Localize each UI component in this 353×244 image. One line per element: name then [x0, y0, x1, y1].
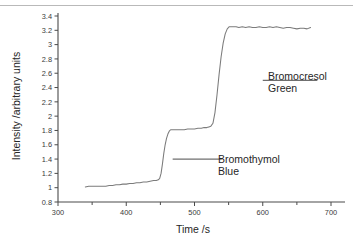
y-tick-label: 3.4	[42, 12, 52, 21]
x-axis-tick-labels: 300400500600700	[52, 208, 337, 217]
x-tick-label: 400	[120, 208, 132, 217]
x-axis-title: Time /s	[176, 223, 210, 235]
y-tick-label: 2.8	[42, 55, 52, 64]
y-tick-label: 2	[48, 112, 52, 121]
x-axis-ticks	[58, 202, 331, 206]
y-tick-label: 1	[48, 183, 52, 192]
x-tick-label: 600	[257, 208, 269, 217]
y-tick-label: 2.2	[42, 98, 52, 107]
x-tick-label: 300	[52, 208, 64, 217]
y-tick-label: 1.2	[42, 169, 52, 178]
y-tick-label: 0.8	[42, 198, 52, 207]
y-tick-label: 1.4	[42, 155, 52, 164]
x-tick-label: 700	[325, 208, 337, 217]
annotation-label-bromocresol-green-line1: Bromocresol	[268, 70, 327, 82]
x-tick-label: 500	[188, 208, 200, 217]
y-tick-label: 2.6	[42, 69, 52, 78]
y-tick-label: 3	[48, 40, 52, 49]
y-axis-title: Intensity /arbitrary units	[10, 52, 22, 161]
annotation-label-bromothymol-blue-line1: Bromothymol	[218, 153, 280, 165]
y-tick-label: 3.2	[42, 26, 52, 35]
y-axis-tick-labels: 0.811.21.41.61.822.22.42.62.833.23.4	[42, 12, 52, 207]
line-chart-canvas: 0.811.21.41.61.822.22.42.62.833.23.4 300…	[0, 0, 353, 244]
annotation-label-bromothymol-blue-line2: Blue	[218, 165, 239, 177]
annotation-label-bromocresol-green-line2: Green	[268, 82, 297, 94]
y-tick-label: 2.4	[42, 83, 52, 92]
page-top-rule	[0, 5, 353, 6]
y-tick-label: 1.6	[42, 140, 52, 149]
chart-figure: 0.811.21.41.61.822.22.42.62.833.23.4 300…	[0, 0, 353, 244]
y-tick-label: 1.8	[42, 126, 52, 135]
